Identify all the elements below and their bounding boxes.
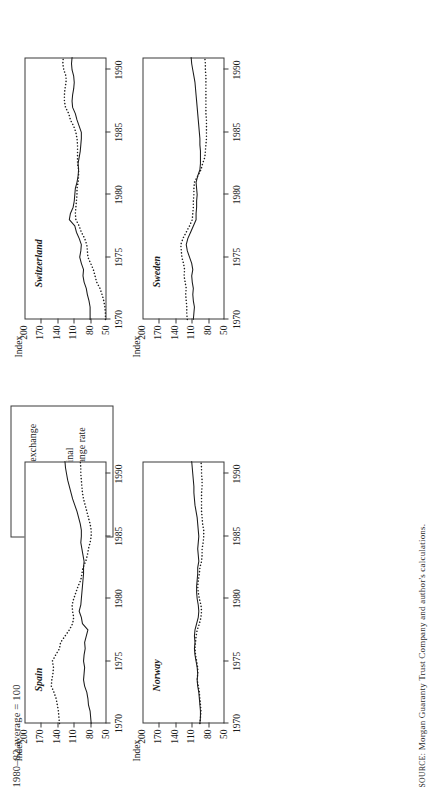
series-layer bbox=[10, 421, 136, 761]
source-prefix: SOURCE: bbox=[417, 752, 426, 787]
series-nominal-exchange-rate bbox=[180, 57, 206, 319]
series-layer bbox=[10, 17, 136, 357]
series-layer bbox=[128, 17, 254, 357]
source-note: SOURCE: Morgan Guaranty Trust Company an… bbox=[416, 523, 426, 787]
figure-stage: 1980–82 average = 100 Real exchange rate… bbox=[0, 0, 435, 795]
source-text: Morgan Guaranty Trust Company and author… bbox=[416, 523, 426, 749]
series-layer bbox=[128, 421, 254, 761]
series-nominal-exchange-rate bbox=[194, 461, 203, 723]
series-real-exchange-rate bbox=[186, 57, 200, 319]
series-real-exchange-rate bbox=[69, 57, 90, 319]
series-real-exchange-rate bbox=[191, 461, 200, 723]
series-real-exchange-rate bbox=[64, 461, 90, 723]
